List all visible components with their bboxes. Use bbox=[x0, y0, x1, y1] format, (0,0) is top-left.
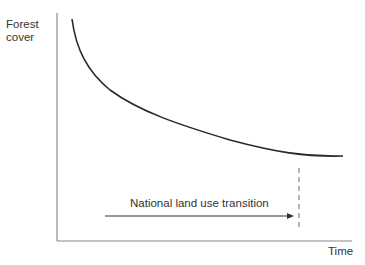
y-axis-label-line2: cover bbox=[6, 31, 39, 44]
transition-annotation: National land use transition bbox=[130, 197, 269, 209]
y-axis-label-line1: Forest bbox=[6, 18, 39, 31]
x-axis-label: Time bbox=[328, 245, 353, 257]
forest-cover-curve bbox=[72, 19, 343, 156]
y-axis-label: Forest cover bbox=[6, 18, 39, 44]
arrowhead-icon bbox=[287, 213, 294, 219]
chart-canvas bbox=[0, 0, 365, 265]
